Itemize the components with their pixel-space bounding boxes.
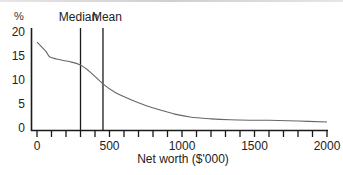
x-tick-label: 1000 — [169, 139, 196, 153]
x-tick-label: 2000 — [314, 139, 341, 153]
mean-label: Mean — [92, 10, 122, 24]
net-worth-chart: 05101520 0500100015002000 % Median Mean … — [0, 0, 343, 175]
y-axis-tick-labels: 05101520 — [12, 25, 26, 135]
y-tick-label: 0 — [18, 121, 25, 135]
x-axis-title: Net worth ($'000) — [137, 152, 229, 166]
y-tick-label: 20 — [12, 25, 26, 39]
x-tick-label: 0 — [34, 139, 41, 153]
y-axis-unit-label: % — [14, 10, 24, 22]
y-tick-label: 10 — [12, 73, 26, 87]
x-tick-label: 500 — [99, 139, 119, 153]
y-tick-label: 15 — [12, 49, 26, 63]
y-tick-label: 5 — [18, 97, 25, 111]
x-axis-ticks: 0500100015002000 — [34, 131, 341, 154]
x-tick-label: 1500 — [241, 139, 268, 153]
